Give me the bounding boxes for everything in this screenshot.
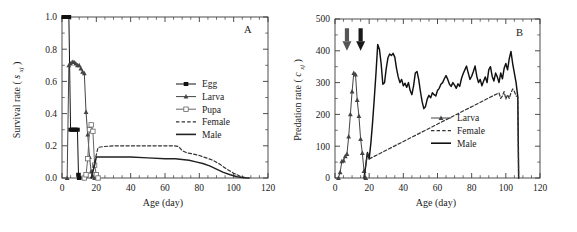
marker-pupa <box>86 156 90 160</box>
marker-larva <box>345 152 350 157</box>
y-tick-label: 0.4 <box>45 109 57 119</box>
legend-label-male: Male <box>457 139 477 149</box>
x-tick-label: 60 <box>160 183 170 193</box>
panel-a-y-axis-title-symbol: s <box>11 75 22 79</box>
svg-text:Predation rate (: Predation rate ( c xj ) <box>292 59 306 141</box>
x-tick-label: 60 <box>433 183 443 193</box>
panel-b: 0204060801001200100200300400500 LarvaFem… <box>288 0 577 232</box>
marker-larva <box>357 113 362 118</box>
legend-label-egg: Egg <box>202 79 218 89</box>
y-tick-label: 0.2 <box>45 141 57 151</box>
y-tick-label: 1.0 <box>45 12 57 22</box>
legend-entry: Male <box>176 130 222 140</box>
panel-a-legend: EggLarvaPupaFemaleMale <box>176 79 230 139</box>
panel-b-y-axis-title-symbol: c <box>292 72 303 77</box>
panel-a-svg: 0204060801001200.00.20.40.60.81.0 EggLar… <box>0 0 290 232</box>
panel-b-arrow-annotations <box>342 28 365 50</box>
arrow-down-annotation <box>356 28 365 50</box>
legend-label-larva: Larva <box>457 113 480 123</box>
x-tick-label: 80 <box>467 183 477 193</box>
marker-larva <box>358 137 363 142</box>
marker-larva <box>338 170 343 175</box>
panel-a-y-axis-title-subscript: xj <box>17 67 24 73</box>
legend-label-pupa: Pupa <box>202 105 222 115</box>
panel-b-y-axis-title-main: Predation rate <box>292 84 303 140</box>
marker-larva <box>348 112 353 117</box>
legend-entry: Egg <box>176 79 218 89</box>
panel-a-y-axis-title-main: Survival rate <box>11 86 22 138</box>
x-tick-label: 40 <box>126 183 136 193</box>
legend-entry: Male <box>431 139 477 149</box>
panel-a-letter: A <box>244 24 252 35</box>
panel-a-axes: 0204060801001200.00.20.40.60.81.0 <box>45 12 275 193</box>
x-tick-label: 80 <box>195 183 205 193</box>
legend-marker-pupa <box>184 107 188 111</box>
x-tick-label: 120 <box>261 183 276 193</box>
marker-pupa <box>96 176 100 180</box>
x-tick-label: 20 <box>364 183 374 193</box>
series-line-egg <box>64 17 79 178</box>
series-line-female <box>364 89 519 178</box>
marker-egg <box>77 176 82 180</box>
legend-entry: Female <box>431 126 485 136</box>
y-tick-label: 100 <box>316 142 331 152</box>
x-tick-label: 120 <box>533 183 548 193</box>
panel-a-x-axis-title: Age (day) <box>143 197 183 209</box>
legend-entry: Larva <box>176 92 225 102</box>
panel-b-y-axis-title-subscript: xj <box>298 65 305 71</box>
marker-pupa <box>89 123 93 127</box>
marker-pupa <box>91 129 95 133</box>
marker-larva <box>360 151 365 156</box>
y-tick-label: 0.6 <box>45 77 57 87</box>
figure-container: 0204060801001200.00.20.40.60.81.0 EggLar… <box>0 0 577 232</box>
legend-entry: Female <box>176 117 230 127</box>
x-tick-label: 100 <box>499 183 514 193</box>
arrow-down-annotation <box>342 28 351 50</box>
panel-b-legend: LarvaFemaleMale <box>431 113 485 148</box>
marker-egg <box>67 15 72 19</box>
panel-b-letter: B <box>516 27 523 38</box>
legend-label-female: Female <box>457 126 485 136</box>
legend-marker-egg <box>184 82 189 86</box>
y-tick-label: 0.8 <box>45 45 57 55</box>
panel-b-axes: 0204060801001200100200300400500 <box>316 14 548 193</box>
svg-text:Survival rate (: Survival rate ( s xj ) <box>11 62 25 139</box>
x-tick-label: 20 <box>92 183 102 193</box>
x-tick-label: 100 <box>227 183 242 193</box>
marker-larva <box>84 109 89 114</box>
series-line-male <box>364 44 519 178</box>
y-tick-label: 0 <box>325 173 330 183</box>
arrow-shaft <box>345 28 349 41</box>
panel-b-svg: 0204060801001200100200300400500 LarvaFem… <box>288 0 577 232</box>
legend-entry: Pupa <box>176 105 222 115</box>
x-tick-label: 0 <box>333 183 338 193</box>
marker-larva <box>350 89 355 94</box>
legend-label-male: Male <box>202 130 222 140</box>
marker-egg <box>75 128 80 132</box>
panel-b-series <box>336 44 519 179</box>
y-tick-label: 300 <box>316 78 331 88</box>
panel-a-y-axis-title: Survival rate ( s xj ) <box>11 62 25 139</box>
panel-b-y-axis-title: Predation rate ( c xj ) <box>292 59 306 141</box>
marker-larva <box>346 134 351 139</box>
legend-label-larva: Larva <box>202 92 225 102</box>
plot-frame <box>62 17 268 178</box>
legend-label-female: Female <box>202 117 230 127</box>
marker-pupa <box>84 173 88 177</box>
x-tick-label: 0 <box>60 183 65 193</box>
x-tick-label: 40 <box>399 183 409 193</box>
arrow-head <box>342 41 351 51</box>
panel-a: 0204060801001200.00.20.40.60.81.0 EggLar… <box>0 0 290 232</box>
panel-b-x-axis-title: Age (day) <box>416 197 456 209</box>
arrow-head <box>356 41 365 51</box>
y-tick-label: 200 <box>316 110 331 120</box>
series-line-larva <box>67 62 94 178</box>
y-tick-label: 0.0 <box>45 173 57 183</box>
arrow-shaft <box>359 28 363 41</box>
y-tick-label: 400 <box>316 46 331 56</box>
marker-larva <box>355 97 360 102</box>
y-tick-label: 500 <box>316 14 331 24</box>
